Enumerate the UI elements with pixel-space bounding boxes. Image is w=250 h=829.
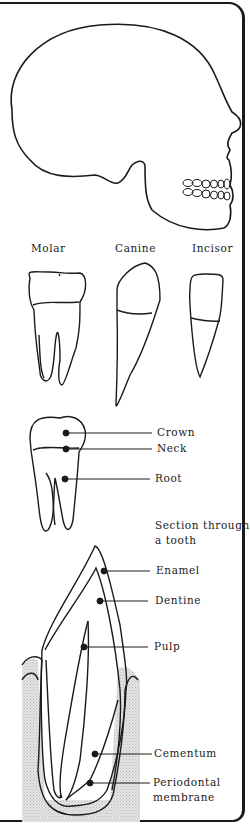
label-cementum: Cementum <box>154 747 217 760</box>
section-title-line1: Section through <box>155 519 250 532</box>
label-periodontal: Periodontal <box>153 776 221 789</box>
label-molar: Molar <box>31 242 66 255</box>
skull-icon <box>11 24 241 229</box>
teeth-diagram <box>0 0 250 829</box>
label-membrane: membrane <box>153 791 215 804</box>
label-neck: Neck <box>157 442 187 455</box>
canine-icon <box>116 263 160 406</box>
label-enamel: Enamel <box>156 564 200 577</box>
label-canine: Canine <box>115 242 156 255</box>
tooth-section-icon <box>22 546 152 822</box>
molar-parts-icon <box>30 417 85 531</box>
incisor-icon <box>190 274 223 377</box>
label-dentine: Dentine <box>155 594 201 607</box>
label-crown: Crown <box>157 426 195 439</box>
part-pointers <box>62 430 152 482</box>
label-root: Root <box>155 472 182 485</box>
label-pulp: Pulp <box>154 640 180 653</box>
molar-icon <box>29 272 86 385</box>
label-incisor: Incisor <box>192 242 233 255</box>
section-title-line2: a tooth <box>155 534 197 547</box>
